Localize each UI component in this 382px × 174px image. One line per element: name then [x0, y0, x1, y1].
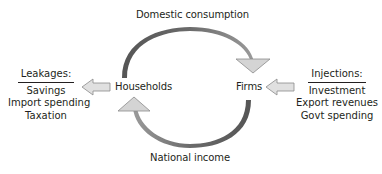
injection-item-govt-spending: Govt spending: [296, 110, 378, 123]
firms-node: Firms: [236, 81, 262, 93]
leakage-arrow: [82, 79, 110, 95]
injection-item-export-revenues: Export revenues: [296, 97, 378, 110]
national-income-label: National income: [150, 152, 230, 164]
injection-item-investment: Investment: [296, 85, 378, 98]
injections-group: Injections: Investment Export revenues G…: [296, 68, 378, 122]
leakage-item-taxation: Taxation: [8, 110, 84, 123]
injections-heading: Injections:: [308, 68, 365, 83]
injection-arrow: [266, 79, 294, 95]
leakages-heading: Leakages:: [18, 68, 75, 83]
leakage-item-savings: Savings: [8, 85, 84, 98]
households-node: Households: [115, 81, 172, 93]
domestic-consumption-arrow: [122, 27, 270, 78]
leakage-item-import-spending: Import spending: [8, 97, 84, 110]
domestic-consumption-label: Domestic consumption: [136, 9, 249, 21]
circular-flow-diagram: Domestic consumption Households Firms Na…: [0, 0, 382, 174]
national-income-arrow: [118, 97, 251, 148]
leakages-group: Leakages: Savings Import spending Taxati…: [8, 68, 84, 122]
